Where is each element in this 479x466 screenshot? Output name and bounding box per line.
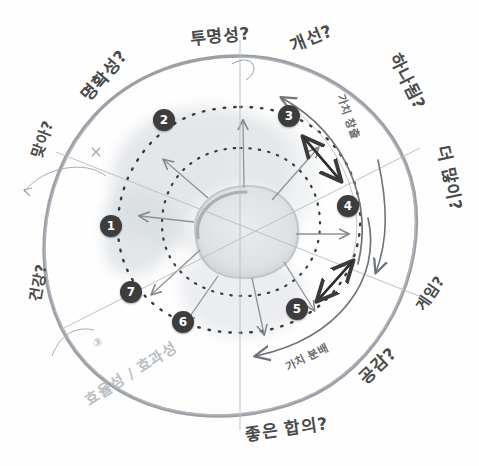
node-5-label: 5: [293, 302, 301, 316]
node-1-label: 1: [107, 219, 115, 233]
node-2[interactable]: 2: [153, 109, 175, 131]
core-blob: [185, 182, 301, 278]
right-down-arrow: [376, 160, 385, 272]
node-6-label: 6: [179, 315, 187, 329]
node-7-label: 7: [127, 285, 135, 299]
diagram-canvas: 1 2 3 4 5 6 7 투명성? 개선? 명확성? 하나됨? 맞아? 더 많…: [0, 0, 479, 466]
node-2-label: 2: [160, 113, 168, 127]
node-4[interactable]: 4: [337, 195, 359, 217]
exchange-arrows-lower: [318, 262, 352, 300]
node-4-label: 4: [344, 199, 352, 213]
node-3-label: 3: [285, 109, 293, 123]
node-3[interactable]: 3: [278, 105, 300, 127]
node-7[interactable]: 7: [120, 281, 142, 303]
node-5[interactable]: 5: [286, 298, 308, 320]
node-1[interactable]: 1: [100, 215, 122, 237]
node-6[interactable]: 6: [172, 311, 194, 333]
